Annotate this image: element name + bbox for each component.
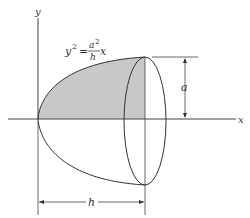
svg-text:a: a [89,40,94,50]
svg-text:y: y [64,45,72,58]
svg-text:x: x [100,45,107,58]
a-arrow-bottom [183,113,187,118]
h-arrow-left [39,200,44,204]
h-label: h [88,196,95,209]
svg-text:2: 2 [95,38,99,46]
svg-text:=: = [79,45,88,58]
h-arrow-right [139,200,144,204]
svg-text:h: h [90,52,96,62]
parabola-lower [38,119,145,185]
a-arrow-top [183,58,187,63]
paraboloid-diagram: a h y x y 2 = a 2 h x [0,0,250,218]
equation: y 2 = a 2 h x [64,38,107,62]
a-label: a [181,81,188,94]
y-axis-label: y [34,6,41,17]
svg-text:2: 2 [72,42,77,51]
x-axis-label: x [238,114,244,125]
